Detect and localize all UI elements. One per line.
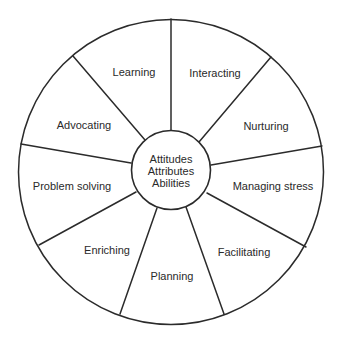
segment-label-interacting: Interacting <box>189 67 240 79</box>
segment-label-nurturing: Nurturing <box>243 120 288 132</box>
hub-label-attributes: Attributes <box>148 165 195 177</box>
segment-label-planning: Planning <box>151 270 194 282</box>
segment-label-problem-solving: Problem solving <box>33 180 111 192</box>
segment-label-managing-stress: Managing stress <box>233 180 314 192</box>
wheel-diagram: LearningInteractingNurturingManaging str… <box>0 0 338 341</box>
segment-label-learning: Learning <box>113 66 156 78</box>
hub-label-attitudes: Attitudes <box>150 153 193 165</box>
segment-label-advocating: Advocating <box>57 119 111 131</box>
segment-label-enriching: Enriching <box>84 244 130 256</box>
hub-label-abilities: Abilities <box>152 177 190 189</box>
center-hub-label: Attitudes Attributes Abilities <box>148 153 195 189</box>
segment-label-facilitating: Facilitating <box>218 246 271 258</box>
